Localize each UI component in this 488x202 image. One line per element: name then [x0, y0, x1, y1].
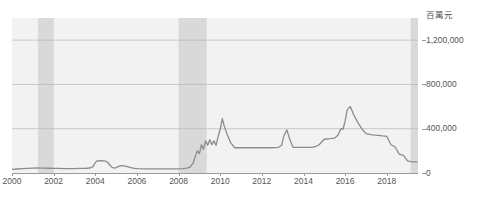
- y-tick-label: 1,200,000: [426, 36, 464, 45]
- x-axis: 2000200220042006200820102012201420162018: [0, 173, 488, 202]
- y-tick-label: 800,000: [426, 80, 457, 89]
- x-tick-label: 2008: [169, 177, 188, 186]
- gridlines-group: [12, 40, 418, 129]
- chart-container: 百萬元 0400,000800,0001,200,000 20002002200…: [0, 0, 488, 202]
- x-tick-label: 2000: [3, 177, 22, 186]
- x-tick-label: 2002: [44, 177, 63, 186]
- recession-band-3: [411, 18, 418, 173]
- x-tick-label: 2018: [377, 177, 396, 186]
- x-tick-label: 2014: [294, 177, 313, 186]
- x-tick-label: 2010: [211, 177, 230, 186]
- series-line-value: [12, 107, 417, 170]
- x-tick-label: 2012: [252, 177, 271, 186]
- x-axis-line: [12, 173, 418, 174]
- x-tick-label: 2006: [127, 177, 146, 186]
- x-tick-label: 2016: [336, 177, 355, 186]
- y-axis-unit-label: 百萬元: [426, 11, 453, 20]
- recession-bands-group: [38, 18, 418, 173]
- y-axis: 百萬元 0400,000800,0001,200,000: [422, 0, 488, 202]
- chart-plot-svg: [12, 18, 418, 173]
- recession-band-2: [179, 18, 207, 173]
- recession-band-1: [38, 18, 54, 173]
- data-series-group: [12, 107, 417, 170]
- x-tick-label: 2004: [86, 177, 105, 186]
- y-tick-label: 400,000: [426, 124, 457, 133]
- plot-area: [12, 18, 418, 173]
